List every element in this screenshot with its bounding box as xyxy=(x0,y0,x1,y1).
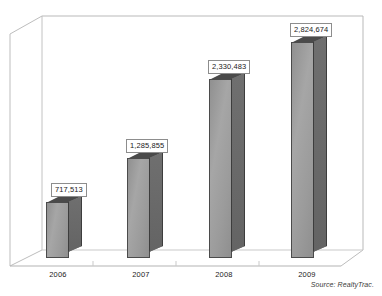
bar-side-face-2009 xyxy=(313,36,327,252)
bar-side-face-2008 xyxy=(231,73,245,252)
value-label-2008: 2,330,483 xyxy=(208,60,250,74)
value-label-2007: 1,285,855 xyxy=(126,139,168,153)
category-label-2008: 2008 xyxy=(200,270,248,279)
source-attribution: Source: RealtyTrac. xyxy=(311,281,374,288)
category-label-2009: 2009 xyxy=(283,270,331,279)
category-label-2007: 2007 xyxy=(117,270,165,279)
bar-front-face-2008 xyxy=(209,79,232,258)
bar-front-face-2009 xyxy=(291,42,314,258)
chart-container: 717,513 1,285,855 2,330,483 2,824,674 20… xyxy=(0,0,382,296)
bar-front-face-2007 xyxy=(127,158,150,258)
category-label-2006: 2006 xyxy=(34,270,82,279)
value-label-2009: 2,824,674 xyxy=(290,23,332,37)
bar-front-face-2006 xyxy=(46,202,69,258)
bar-side-face-2007 xyxy=(149,152,163,252)
bars-layer: 717,513 1,285,855 2,330,483 2,824,674 xyxy=(0,0,382,296)
bar-side-face-2006 xyxy=(68,196,82,252)
value-label-2006: 717,513 xyxy=(51,183,87,197)
